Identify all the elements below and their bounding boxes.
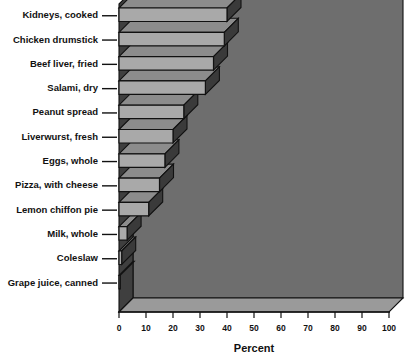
bar-3 bbox=[119, 67, 219, 95]
category-label: Salami, dry bbox=[47, 82, 98, 93]
category-label: Pizza, with cheese bbox=[15, 179, 98, 190]
bar-5 bbox=[119, 116, 187, 144]
bar-front-face bbox=[119, 81, 205, 95]
bar-1 bbox=[119, 18, 238, 46]
bar-front-face bbox=[119, 130, 173, 144]
bar-front-face bbox=[119, 57, 214, 71]
bar-4 bbox=[119, 91, 198, 119]
x-tick-label-0: 0 bbox=[117, 323, 122, 333]
x-tick-label-60: 60 bbox=[276, 323, 286, 333]
x-tick-label-30: 30 bbox=[195, 323, 205, 333]
category-label: Peanut spread bbox=[33, 106, 99, 117]
x-tick-label-90: 90 bbox=[357, 323, 367, 333]
bar-front-face bbox=[119, 251, 122, 265]
floor bbox=[119, 298, 403, 312]
x-tick-label-40: 40 bbox=[222, 323, 232, 333]
category-label: Beef liver, fried bbox=[30, 58, 98, 69]
bar-top-face bbox=[119, 0, 241, 8]
bar-front-face bbox=[119, 202, 149, 216]
category-label: Kidneys, cooked bbox=[23, 9, 99, 20]
bar-front-face bbox=[119, 8, 227, 22]
category-label: Liverwurst, fresh bbox=[21, 131, 98, 142]
x-axis-title: Percent bbox=[234, 342, 275, 354]
x-tick-label-50: 50 bbox=[249, 323, 259, 333]
x-tick-label-10: 10 bbox=[141, 323, 151, 333]
x-tick-label-70: 70 bbox=[303, 323, 313, 333]
x-tick-label-100: 100 bbox=[382, 323, 396, 333]
bar-0 bbox=[119, 0, 241, 22]
bar-2 bbox=[119, 43, 228, 71]
bar-front-face bbox=[119, 105, 184, 119]
category-label: Coleslaw bbox=[57, 252, 99, 263]
category-label: Milk, whole bbox=[47, 228, 98, 239]
bar-front-face bbox=[119, 32, 224, 46]
bar-front-face bbox=[119, 178, 160, 192]
x-tick-label-20: 20 bbox=[168, 323, 178, 333]
bar-front-face bbox=[119, 275, 120, 289]
bar-chart: 0102030405060708090100 Kidneys, cookedCh… bbox=[0, 0, 420, 364]
category-label: Eggs, whole bbox=[43, 155, 98, 166]
category-label: Lemon chiffon pie bbox=[16, 204, 98, 215]
chart-container: 0102030405060708090100 Kidneys, cookedCh… bbox=[0, 0, 420, 364]
bar-front-face bbox=[119, 227, 127, 241]
category-label: Grape juice, canned bbox=[8, 277, 98, 288]
bar-front-face bbox=[119, 154, 165, 168]
category-label: Chicken drumstick bbox=[13, 34, 99, 45]
x-tick-label-80: 80 bbox=[330, 323, 340, 333]
